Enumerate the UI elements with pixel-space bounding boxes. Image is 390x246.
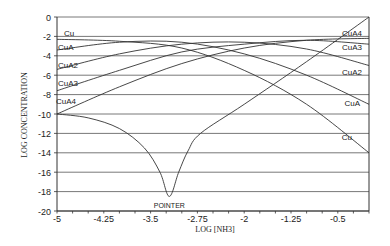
y-tick-label: -2 bbox=[43, 32, 51, 42]
x-tick-label: -2 bbox=[240, 214, 248, 224]
speciation-chart: 0-2-4-6-8-10-12-14-16-18-20-5-4.25-3.5-2… bbox=[0, 0, 390, 246]
series-line-cua3 bbox=[57, 40, 369, 90]
x-tick-label: -5 bbox=[53, 214, 61, 224]
y-tick-label: -12 bbox=[38, 129, 51, 139]
y-tick-label: -20 bbox=[38, 207, 51, 217]
left-label-cua3: CuA3 bbox=[58, 79, 79, 88]
right-label-cua2: CuA2 bbox=[342, 68, 363, 77]
series-line-cua4 bbox=[57, 38, 369, 114]
right-label-cu: Cu bbox=[342, 133, 352, 142]
y-axis-label: LOG CONCENTRATION bbox=[20, 72, 29, 158]
left-label-cua: CuA bbox=[58, 43, 74, 52]
left-label-cua4: CuA4 bbox=[56, 97, 77, 106]
pointer-label: POINTER bbox=[154, 202, 185, 209]
y-tick-label: -4 bbox=[43, 51, 51, 61]
right-label-cua4: CuA4 bbox=[342, 29, 363, 38]
data-series bbox=[57, 17, 369, 196]
x-tick-label: -2.75 bbox=[187, 214, 208, 224]
y-tick-label: -8 bbox=[43, 90, 51, 100]
y-tick-label: -14 bbox=[38, 148, 51, 158]
x-tick-label: -4.25 bbox=[94, 214, 115, 224]
x-tick-label: -0.5 bbox=[330, 214, 346, 224]
y-tick-label: -10 bbox=[38, 110, 51, 120]
y-tick-label: -16 bbox=[38, 168, 51, 178]
gridlines bbox=[57, 17, 369, 211]
y-tick-label: -18 bbox=[38, 187, 51, 197]
y-tick-label: -6 bbox=[43, 71, 51, 81]
series-line-cu bbox=[57, 39, 369, 152]
right-label-cua: CuA bbox=[344, 99, 360, 108]
y-tick-label: 0 bbox=[46, 13, 51, 23]
left-label-cua2: CuA2 bbox=[58, 61, 79, 70]
left-label-cu: Cu bbox=[64, 29, 74, 38]
x-tick-label: -3.5 bbox=[143, 214, 159, 224]
x-tick-label: -1.25 bbox=[281, 214, 302, 224]
x-axis-label: LOG [NH3] bbox=[195, 225, 235, 234]
axes: 0-2-4-6-8-10-12-14-16-18-20-5-4.25-3.5-2… bbox=[38, 13, 369, 225]
right-label-cua3: CuA3 bbox=[342, 43, 363, 52]
